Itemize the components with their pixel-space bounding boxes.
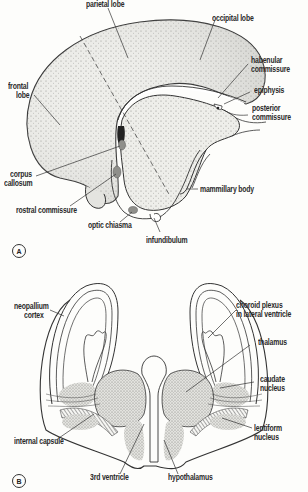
label-frontal-lobe-2: lobe — [16, 91, 29, 100]
label-caudate-2: nucleus — [260, 384, 285, 393]
label-posterior-2: commissure — [252, 113, 291, 122]
left-lentiform — [62, 414, 98, 430]
label-neopallium-2: cortex — [24, 311, 44, 320]
label-choroid-2: in lateral ventricle — [236, 310, 291, 319]
label-epiphysis: epiphysis — [254, 86, 284, 95]
label-third-ventricle: 3rd ventricle — [90, 473, 129, 482]
right-lentiform — [210, 414, 246, 430]
label-mammillary-body: mammillary body — [200, 185, 254, 194]
left-caudate — [58, 383, 96, 408]
label-corpus-2: callosum — [4, 179, 32, 188]
label-internal-capsule: internal capsule — [14, 437, 64, 446]
label-parietal-lobe: parietal lobe — [86, 0, 124, 9]
label-occipital-lobe: occipital lobe — [212, 14, 254, 23]
label-optic-chiasma: optic chiasma — [88, 221, 132, 230]
label-rostral-commissure: rostral commissure — [16, 206, 77, 215]
figure-b-coronal-section — [40, 284, 268, 474]
label-lentiform-2: nucleus — [254, 433, 279, 442]
panel-label-b: B — [12, 474, 26, 488]
panel-label-a: A — [12, 244, 26, 258]
label-habenular-2: commissure — [251, 65, 290, 74]
figure-a-lateral-brain — [27, 8, 266, 232]
label-hypothalamus: hypothalamus — [168, 473, 213, 482]
label-thalamus: thalamus — [258, 338, 287, 347]
label-infundibulum: infundibulum — [146, 236, 188, 245]
